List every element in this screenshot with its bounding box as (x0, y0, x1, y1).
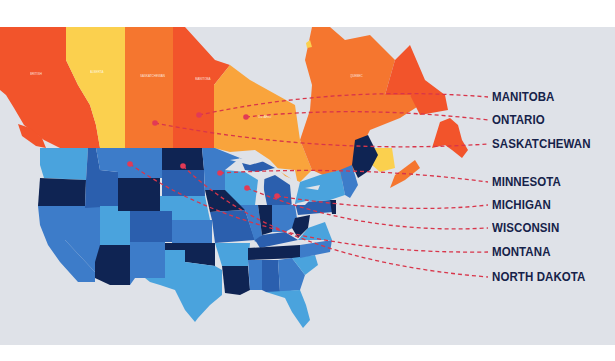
state-oregon (38, 178, 86, 208)
dot-manitoba (196, 112, 202, 118)
state-michigan (262, 175, 292, 210)
label-saskatchewan: SASKATCHEWAN (492, 137, 591, 151)
state-louisiana (222, 266, 250, 295)
dot-ontario (243, 114, 249, 120)
label-montana: MONTANA (492, 245, 551, 259)
svg-text:QUEBEC: QUEBEC (350, 74, 364, 78)
label-north-dakota: NORTH DAKOTA (492, 270, 586, 284)
dot-minnesota (217, 170, 223, 176)
svg-text:MANITOBA: MANITOBA (195, 77, 211, 81)
state-kansas (172, 220, 212, 243)
dot-saskatchewan (152, 120, 158, 126)
state-south-dakota (162, 170, 205, 196)
label-michigan: MICHIGAN (492, 198, 551, 212)
dot-north-dakota (180, 163, 186, 169)
dot-michigan (274, 193, 280, 199)
svg-text:ALBERTA: ALBERTA (90, 70, 103, 74)
state-alabama (262, 260, 280, 292)
dot-wisconsin (244, 185, 250, 191)
island-newfoundland (432, 118, 468, 158)
province-saskatchewan (125, 27, 173, 148)
state-arkansas (215, 243, 250, 266)
label-minnesota: MINNESOTA (492, 175, 561, 189)
state-arizona (95, 245, 130, 285)
state-tennessee (248, 245, 300, 260)
state-wyoming (118, 178, 160, 211)
label-ontario: ONTARIO (492, 113, 545, 127)
label-manitoba: MANITOBA (492, 90, 555, 104)
state-florida (266, 290, 310, 328)
state-washington (40, 148, 88, 180)
svg-text:BRITISH: BRITISH (30, 72, 42, 76)
state-mississippi (248, 260, 262, 290)
svg-text:SASKATCHEWAN: SASKATCHEWAN (140, 74, 165, 78)
state-utah (100, 206, 130, 245)
label-wisconsin: WISCONSIN (492, 221, 559, 235)
dot-montana (127, 161, 133, 167)
state-north-carolina (300, 240, 332, 258)
state-colorado (130, 211, 172, 242)
